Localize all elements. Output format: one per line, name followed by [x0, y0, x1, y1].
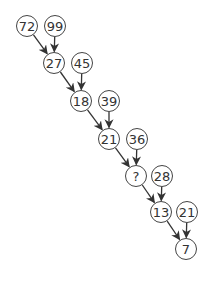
node-label: 28 [154, 169, 171, 184]
node-label: 21 [101, 132, 118, 147]
number-chain-diagram: 7299274518392136?2813217 [0, 0, 209, 283]
node-label: ? [133, 169, 140, 184]
node-label: 27 [46, 56, 63, 71]
arrow-n9-to-n11 [142, 185, 154, 203]
number-node: 21 [177, 202, 198, 223]
node-label: 72 [19, 19, 36, 34]
nodes-layer: 7299274518392136?2813217 [17, 16, 198, 260]
number-node: 72 [17, 16, 38, 37]
number-node: 28 [152, 166, 173, 187]
node-label: 45 [74, 56, 91, 71]
number-node: 18 [71, 91, 92, 112]
node-label: 7 [182, 242, 190, 257]
number-node: 36 [127, 129, 148, 150]
arrow-n1-to-n3 [34, 35, 48, 54]
unknown-node: ? [126, 166, 147, 187]
node-label: 13 [153, 205, 170, 220]
node-label: 18 [73, 94, 90, 109]
number-node: 39 [99, 91, 120, 112]
number-node: 13 [151, 202, 172, 223]
number-node: 99 [45, 16, 66, 37]
node-label: 99 [47, 19, 64, 34]
number-node: 21 [99, 129, 120, 150]
node-label: 36 [129, 132, 146, 147]
arrow-n3-to-n5 [60, 72, 74, 92]
arrow-n7-to-n9 [116, 148, 130, 167]
node-label: 39 [101, 94, 118, 109]
arrow-n5-to-n7 [88, 110, 103, 130]
number-node: 7 [176, 239, 197, 260]
number-node: 45 [72, 53, 93, 74]
node-label: 21 [179, 205, 196, 220]
number-node: 27 [44, 53, 65, 74]
arrow-n11-to-n13 [167, 221, 179, 239]
